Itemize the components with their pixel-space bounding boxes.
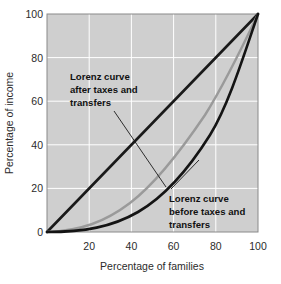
x-axis-tick-labels: 20 40 60 80 100 [83, 240, 267, 252]
chart-canvas: Lorenz curve after taxes and transfers L… [0, 0, 281, 284]
y-tick-label-80: 80 [31, 52, 43, 64]
x-tick-label-40: 40 [126, 240, 138, 252]
y-tick-label-20: 20 [31, 182, 43, 194]
x-axis-title: Percentage of families [100, 260, 204, 272]
lorenz-before-annotation-line-1: Lorenz curve [169, 193, 229, 204]
x-tick-label-60: 60 [168, 240, 180, 252]
x-tick-label-20: 20 [83, 240, 95, 252]
lorenz-curve-chart: Lorenz curve after taxes and transfers L… [0, 0, 281, 284]
lorenz-before-annotation-line-3: transfers [169, 219, 210, 230]
lorenz-before-annotation-line-2: before taxes and [169, 206, 245, 217]
y-tick-label-40: 40 [31, 139, 43, 151]
x-tick-label-100: 100 [249, 240, 267, 252]
y-tick-label-60: 60 [31, 95, 43, 107]
x-tick-label-80: 80 [210, 240, 222, 252]
lorenz-after-annotation-line-2: after taxes and [70, 84, 138, 95]
lorenz-after-annotation-line-3: transfers [70, 97, 111, 108]
y-tick-label-0: 0 [37, 226, 43, 238]
y-axis-title: Percentage of income [3, 72, 15, 174]
lorenz-after-annotation-line-1: Lorenz curve [70, 71, 130, 82]
y-tick-label-100: 100 [25, 8, 43, 20]
y-axis-tick-labels: 100 80 60 40 20 0 [25, 8, 43, 238]
